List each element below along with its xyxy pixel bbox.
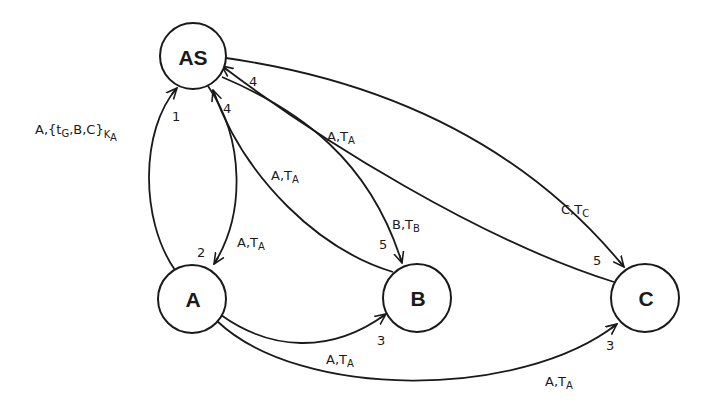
- seq-a-to-c: 3: [606, 338, 614, 353]
- node-as-label: AS: [178, 46, 207, 69]
- msg-c-to-as: A,TA: [327, 129, 355, 146]
- node-c: C: [611, 264, 679, 332]
- seq-as-to-a: 2: [197, 245, 205, 260]
- node-b: B: [383, 264, 451, 332]
- node-as: AS: [160, 23, 226, 89]
- msg-as-to-a: A,TA: [237, 235, 265, 252]
- node-b-label: B: [410, 287, 425, 310]
- msg-as-to-c: C,TC: [561, 202, 589, 219]
- msg-b-to-as: A,TA: [271, 168, 299, 185]
- seq-c-to-as: 4: [249, 74, 257, 89]
- node-c-label: C: [638, 287, 653, 310]
- msg-a-to-b: A,TA: [326, 352, 354, 369]
- msg-a-to-c: A,TA: [545, 374, 573, 391]
- seq-a-to-b: 3: [377, 333, 385, 348]
- seq-b-to-as: 4: [223, 101, 231, 116]
- msg-a-to-as: A,{tG,B,C}KA: [35, 122, 117, 143]
- edge-as-to-c: [226, 58, 624, 267]
- seq-as-to-b: 5: [379, 237, 387, 252]
- node-a: A: [158, 265, 226, 333]
- edge-a-to-b: [221, 314, 386, 343]
- seq-as-to-c: 5: [593, 253, 601, 268]
- node-a-label: A: [185, 288, 200, 311]
- msg-as-to-b: B,TB: [392, 217, 420, 234]
- seq-a-to-as: 1: [172, 109, 180, 124]
- protocol-diagram: AS A B C 1 2 4 4 5 5 3 3 A,{tG,B,C}KA A,…: [0, 0, 710, 410]
